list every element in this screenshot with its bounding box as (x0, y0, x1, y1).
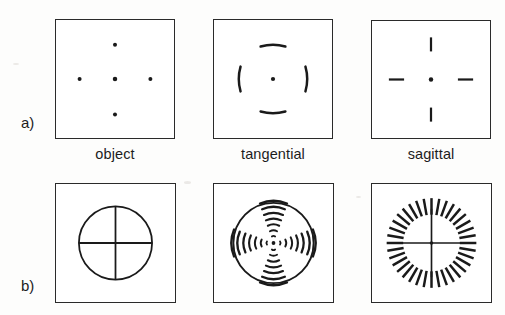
panel-b-object (55, 183, 176, 303)
tangential-blur-circle-svg (214, 184, 333, 302)
center-dot (429, 77, 433, 81)
panel-a-sagittal (371, 20, 491, 139)
row-label-a: a) (21, 114, 34, 131)
caption-tangential: tangential (213, 146, 333, 162)
object-point-pattern-svg (56, 20, 174, 138)
tangential-image-pattern-svg (214, 20, 332, 138)
sagittal-image-pattern-svg (372, 21, 490, 138)
panel-a-object (55, 19, 175, 139)
caption-sagittal: sagittal (371, 146, 491, 162)
center-dot (430, 241, 434, 245)
sagittal-blur-circle-svg (372, 184, 491, 302)
center-dot (272, 241, 276, 245)
panel-b-tangential (213, 183, 334, 303)
center-dot (271, 77, 275, 81)
figure-canvas: a) (0, 0, 505, 315)
object-circle-cross-svg (56, 184, 175, 302)
panel-b-sagittal (371, 183, 492, 303)
row-label-b: b) (21, 277, 34, 294)
object-dots (78, 43, 153, 117)
caption-object: object (55, 146, 175, 162)
panel-a-tangential (213, 19, 333, 139)
